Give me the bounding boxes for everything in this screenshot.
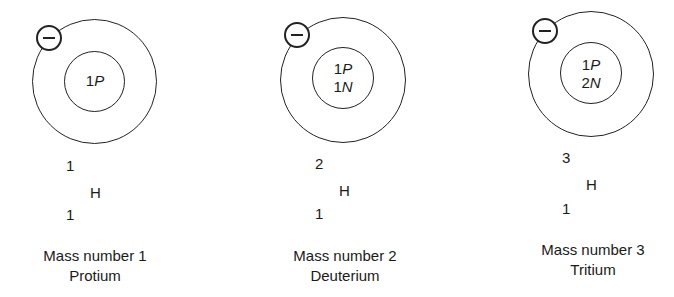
atomic-number: 1 — [66, 206, 74, 223]
element-symbol: H — [586, 176, 597, 193]
element-symbol: H — [90, 184, 101, 201]
nucleus-label: 1P 1N — [313, 60, 373, 96]
caption-name: Tritium — [513, 260, 673, 280]
atomic-number: 1 — [315, 205, 323, 222]
electron-icon — [36, 25, 62, 51]
atomic-number: 1 — [562, 200, 570, 217]
element-symbol: H — [339, 182, 350, 199]
mass-number: 1 — [66, 157, 74, 174]
electron-icon — [284, 22, 310, 48]
mass-number: 2 — [315, 155, 323, 172]
caption-mass: Mass number 2 — [265, 246, 425, 266]
mass-number: 3 — [562, 149, 570, 166]
nucleus-label: 1P — [65, 72, 125, 90]
nucleus-label: 1P 2N — [561, 56, 621, 92]
caption-mass: Mass number 3 — [513, 240, 673, 260]
caption: Mass number 3 Tritium — [513, 240, 673, 280]
caption: Mass number 2 Deuterium — [265, 246, 425, 286]
caption: Mass number 1 Protium — [15, 246, 175, 286]
caption-name: Protium — [15, 266, 175, 286]
caption-name: Deuterium — [265, 266, 425, 286]
caption-mass: Mass number 1 — [15, 246, 175, 266]
electron-icon — [532, 18, 558, 44]
